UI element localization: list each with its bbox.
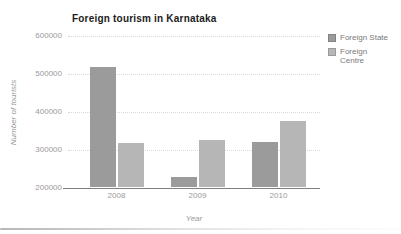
y-axis-title: Number of tourists [10,79,19,144]
gridline-600000 [68,36,320,37]
bar-chart: Foreign tourism in Karnataka 20000030000… [0,0,401,234]
bar-foreign-state-2008 [90,67,116,187]
legend-label-foreign-state: Foreign State [340,33,388,42]
page-bottom-shadow [0,228,401,230]
bar-foreign-centre-2010 [280,121,306,188]
y-tick-label-600000: 600000 [26,31,62,40]
x-tick-label-2010: 2010 [257,191,301,200]
y-tick-label-400000: 400000 [26,107,62,116]
bar-foreign-state-2010 [252,142,278,188]
y-tick-label-300000: 300000 [26,145,62,154]
legend-label-foreign-centre: Foreign Centre [340,47,367,65]
bar-foreign-state-2009 [171,177,197,187]
legend-item-foreign-state: Foreign State [328,33,388,42]
x-axis-line [63,188,320,189]
legend-item-foreign-centre: Foreign Centre [328,47,388,65]
bar-foreign-centre-2008 [118,143,144,187]
x-tick-label-2009: 2009 [176,191,220,200]
bar-foreign-centre-2009 [199,140,225,187]
x-tick-label-2008: 2008 [95,191,139,200]
legend-swatch-foreign-centre [328,48,336,56]
legend-swatch-foreign-state [328,34,336,42]
x-axis-title: Year [68,214,320,223]
y-tick-label-500000: 500000 [26,69,62,78]
legend: Foreign StateForeign Centre [328,33,388,65]
y-tick-label-200000: 200000 [26,183,62,192]
